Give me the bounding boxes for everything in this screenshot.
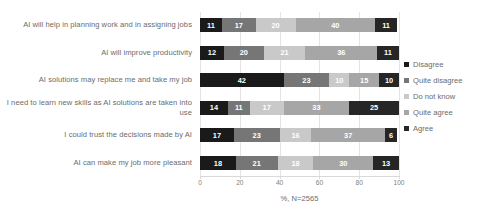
gridline [359, 12, 360, 176]
legend: DisagreeQuite disagreeDo not knowQuite a… [404, 56, 486, 136]
bar-segment-value: 11 [207, 21, 215, 30]
gridline [319, 12, 320, 176]
category-axis-labels: AI will help in planning work and in ass… [0, 0, 196, 176]
x-tick-label: 0 [198, 179, 202, 186]
bar-segment: 18 [278, 156, 314, 170]
category-label: I need to learn new skills as AI solutio… [2, 98, 192, 118]
bar-segment: 17 [250, 101, 284, 115]
legend-item[interactable]: Disagree [404, 56, 486, 72]
bar-segment: 42 [200, 73, 284, 87]
legend-swatch-icon [404, 126, 409, 131]
bar-segment-value: 37 [344, 131, 352, 140]
bar-segment-value: 15 [360, 76, 368, 85]
bar-segment: 6 [385, 128, 397, 142]
bar-segment-value: 33 [312, 103, 320, 112]
x-tick-label: 20 [236, 179, 243, 186]
bar-row: 1411173325 [200, 101, 399, 115]
bar-segment-value: 23 [253, 131, 261, 140]
bar-segment: 30 [313, 156, 373, 170]
category-label: AI can make my job more pleasant [2, 158, 192, 168]
gridline [200, 12, 201, 176]
legend-label: Do not know [413, 92, 455, 101]
bar-segment-value: 17 [213, 131, 221, 140]
category-label: I could trust the decisions made by AI [2, 130, 192, 140]
bar-segment-value: 11 [235, 103, 243, 112]
bar-segment: 12 [200, 46, 224, 60]
bar-segment-value: 6 [389, 131, 393, 140]
category-label: AI will improve productivity [2, 48, 192, 58]
bar-segment: 13 [373, 156, 399, 170]
x-axis-caption: %, N=2565 [200, 194, 399, 203]
bar-segment-value: 42 [238, 76, 246, 85]
bar-segment: 11 [228, 101, 250, 115]
bar-segment-value: 17 [263, 103, 271, 112]
bar-segment-value: 16 [291, 131, 299, 140]
legend-swatch-icon [404, 94, 409, 99]
bar-segment: 40 [296, 18, 376, 32]
bar-segment-value: 18 [214, 159, 222, 168]
bar-segment: 33 [284, 101, 350, 115]
plot-area: 1117204011122021361142231015101411173325… [200, 12, 399, 176]
bar-segment: 15 [349, 73, 379, 87]
legend-item[interactable]: Agree [404, 120, 486, 136]
gridline [240, 12, 241, 176]
bar-segment-value: 20 [240, 48, 248, 57]
bar-segment: 23 [234, 128, 280, 142]
bar-segment-value: 25 [370, 103, 378, 112]
legend-swatch-icon [404, 78, 409, 83]
legend-swatch-icon [404, 62, 409, 67]
bar-segment: 20 [224, 46, 264, 60]
bar-segment-value: 11 [384, 48, 392, 57]
bar-segment-value: 10 [385, 76, 393, 85]
bar-segment-value: 40 [331, 21, 339, 30]
bar-segment-value: 21 [253, 159, 261, 168]
bar-segment-value: 14 [210, 103, 218, 112]
legend-swatch-icon [404, 110, 409, 115]
bar-segment: 21 [264, 46, 306, 60]
bar-segment-value: 17 [235, 21, 243, 30]
legend-label: Quite agree [413, 108, 453, 117]
bar-segment: 10 [329, 73, 349, 87]
bar-segment-value: 18 [291, 159, 299, 168]
bar-segment: 23 [284, 73, 330, 87]
bar-segment: 11 [377, 46, 399, 60]
bar-segment: 16 [280, 128, 312, 142]
bar-segment-value: 12 [208, 48, 216, 57]
bar-segment: 21 [236, 156, 278, 170]
category-label: AI solutions may replace me and take my … [2, 75, 192, 85]
bar-segment-value: 21 [280, 48, 288, 57]
bar-row: 4223101510 [200, 73, 399, 87]
legend-item[interactable]: Quite disagree [404, 72, 486, 88]
bar-segment-value: 36 [337, 48, 345, 57]
legend-item[interactable]: Quite agree [404, 104, 486, 120]
x-axis: 020406080100 [200, 176, 399, 190]
legend-label: Quite disagree [413, 76, 462, 85]
legend-label: Agree [413, 124, 433, 133]
bar-segment: 36 [305, 46, 377, 60]
bar-segment: 10 [379, 73, 399, 87]
stacked-bar-chart: AI will help in planning work and in ass… [0, 0, 487, 215]
x-tick-label: 100 [393, 179, 404, 186]
bar-row: 1220213611 [200, 46, 399, 60]
bar-segment: 18 [200, 156, 236, 170]
bar-segment-value: 20 [271, 21, 279, 30]
bar-segment: 37 [311, 128, 385, 142]
x-tick-label: 60 [316, 179, 323, 186]
bar-segment-value: 10 [335, 76, 343, 85]
gridline [280, 12, 281, 176]
bar-segment-value: 13 [382, 159, 390, 168]
gridlines [200, 12, 399, 176]
x-axis-line [200, 176, 399, 177]
gridline [399, 12, 400, 176]
bar-segment: 11 [200, 18, 222, 32]
bar-segment: 14 [200, 101, 228, 115]
legend-item[interactable]: Do not know [404, 88, 486, 104]
bar-segment-value: 11 [382, 21, 390, 30]
legend-label: Disagree [413, 60, 443, 69]
bar-segment-value: 23 [302, 76, 310, 85]
bar-segment: 17 [222, 18, 256, 32]
bar-segment: 25 [349, 101, 399, 115]
bar-row: 1821183013 [200, 156, 399, 170]
bar-segment: 20 [256, 18, 296, 32]
bar-segment: 11 [375, 18, 397, 32]
